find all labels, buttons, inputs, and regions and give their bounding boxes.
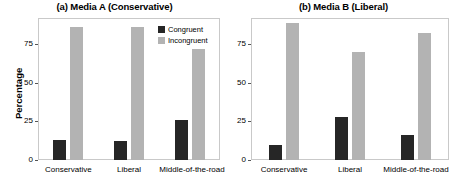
bar-incongruent-0	[286, 23, 299, 160]
y-tick-mark	[248, 83, 251, 84]
panel-media-b: (b) Media B (Liberal) 0255075 Conservati…	[229, 0, 458, 185]
y-tick-label: 75	[16, 40, 33, 48]
panel-b-title: (b) Media B (Liberal)	[229, 1, 458, 12]
x-tick-label: Middle-of-the-road	[159, 166, 220, 174]
x-tick-label: Liberal	[99, 166, 160, 174]
x-tick-label: Middle-of-the-road	[383, 166, 449, 174]
legend: CongruentIncongruent	[158, 26, 208, 44]
legend-label: Congruent	[168, 26, 203, 34]
y-tick-mark	[35, 121, 38, 122]
bar-incongruent-2	[418, 33, 431, 160]
bar-congruent-0	[269, 145, 282, 160]
x-tick-label: Liberal	[317, 166, 383, 174]
figure: (a) Media A (Conservative) Percentage 02…	[0, 0, 458, 185]
y-tick-label: 50	[16, 79, 33, 87]
y-tick-mark	[35, 44, 38, 45]
panel-a-title: (a) Media A (Conservative)	[0, 1, 229, 12]
y-tick-mark	[248, 44, 251, 45]
x-tick-label: Conservative	[251, 166, 317, 174]
bar-incongruent-1	[352, 52, 365, 160]
y-tick-mark	[35, 83, 38, 84]
legend-swatch-icon	[158, 37, 165, 44]
x-tick-label: Conservative	[38, 166, 99, 174]
bar-incongruent-0	[70, 27, 83, 160]
y-tick-mark	[35, 160, 38, 161]
bar-incongruent-1	[131, 27, 144, 160]
legend-item: Congruent	[158, 26, 208, 34]
y-tick-label: 75	[229, 40, 246, 48]
y-axis-label: Percentage	[13, 68, 24, 119]
bar-incongruent-2	[192, 49, 205, 160]
bar-congruent-0	[53, 140, 66, 160]
bar-congruent-1	[335, 117, 348, 160]
bar-congruent-1	[114, 141, 127, 160]
legend-swatch-icon	[158, 26, 165, 33]
panel-media-a: (a) Media A (Conservative) Percentage 02…	[0, 0, 229, 185]
bar-congruent-2	[175, 120, 188, 160]
y-tick-label: 25	[229, 117, 246, 125]
legend-item: Incongruent	[158, 37, 208, 45]
y-tick-label: 0	[16, 156, 33, 164]
y-tick-label: 0	[229, 156, 246, 164]
y-tick-mark	[248, 121, 251, 122]
y-tick-label: 25	[16, 117, 33, 125]
legend-label: Incongruent	[168, 37, 208, 45]
y-tick-mark	[248, 160, 251, 161]
y-tick-label: 50	[229, 79, 246, 87]
bar-congruent-2	[401, 135, 414, 160]
